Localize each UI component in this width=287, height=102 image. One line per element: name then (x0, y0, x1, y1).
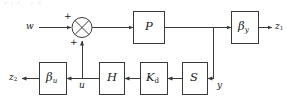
diagram-canvas (0, 0, 287, 102)
signal-label-z2: z2 (9, 73, 17, 83)
block-label-Kd: Kd (146, 72, 159, 84)
block-label-S: S (190, 72, 198, 84)
signal-label-u: u (79, 81, 85, 90)
sum-sign-u: + (70, 38, 78, 47)
signal-label-y: y (217, 81, 222, 90)
block-label-beta-y: βy (238, 21, 249, 33)
signal-label-w: w (26, 22, 34, 31)
sum-sign-w: + (64, 12, 72, 21)
block-label-beta-u: βu (46, 72, 57, 84)
signal-label-z1: z1 (275, 22, 283, 32)
block-label-P: P (145, 21, 153, 33)
block-diagram: P βy βu H Kd S w z1 z2 u y + + (0, 0, 287, 102)
block-label-H: H (107, 72, 117, 84)
